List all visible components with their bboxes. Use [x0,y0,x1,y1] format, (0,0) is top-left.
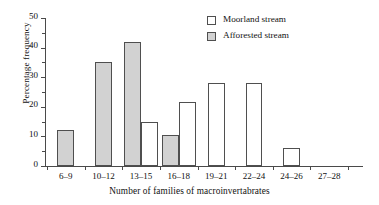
y-axis-tick-minor [42,92,45,93]
x-axis-category-label: 24–26 [280,172,303,181]
y-axis-tick-minor [42,122,45,123]
bar-moorland [208,83,225,166]
legend-label-afforested: Afforested stream [223,31,289,40]
x-axis-category-label: 27–28 [318,172,341,181]
y-axis-tick-major: 50 [41,18,45,19]
y-axis-tick-major: 30 [41,77,45,78]
y-axis-tick-major: 20 [41,107,45,108]
y-axis-tick-minor [42,62,45,63]
y-axis-tick-label: 40 [29,41,38,50]
x-axis-category-label: 16–18 [167,172,190,181]
bar-moorland [283,148,300,166]
bar-moorland [246,83,263,166]
x-axis-tick [273,166,274,170]
plot-area: 010203040506–910–1213–1516–1819–2122–242… [45,14,363,166]
bar-moorland [179,102,196,166]
bar-moorland [141,122,158,166]
histogram-chart: Percentage frequency 010203040506–910–12… [0,0,379,205]
y-axis-tick-label: 50 [29,12,38,21]
y-axis-tick-major: 40 [41,48,45,49]
x-axis-category-label: 22–24 [243,172,266,181]
y-axis-tick-major: 0 [41,166,45,167]
legend-swatch-afforested-icon [207,32,216,41]
y-axis-tick-minor [42,33,45,34]
y-axis-tick-major: 10 [41,136,45,137]
legend-swatch-moorland-icon [207,16,216,25]
bar-afforested [162,135,179,166]
x-axis-tick [160,166,161,170]
legend-item-moorland: Moorland stream [207,12,289,28]
x-axis-tick [348,166,349,170]
bar-afforested [57,130,74,166]
x-axis-tick [47,166,48,170]
x-axis-category-label: 10–12 [92,172,115,181]
y-axis-line [45,18,46,166]
x-axis-title: Number of families of macroinvertabrates [0,186,379,196]
x-axis-category-label: 13–15 [130,172,153,181]
x-axis-line [45,166,363,167]
x-axis-tick [85,166,86,170]
x-axis-tick [198,166,199,170]
legend-item-afforested: Afforested stream [207,28,289,44]
y-axis-tick-label: 20 [29,100,38,109]
x-axis-category-label: 19–21 [205,172,228,181]
x-axis-tick [310,166,311,170]
legend-label-moorland: Moorland stream [223,15,286,24]
bar-afforested [124,42,141,166]
bar-afforested [95,62,112,166]
x-axis-category-label: 6–9 [59,172,73,181]
x-axis-tick [235,166,236,170]
y-axis-tick-label: 0 [34,160,39,169]
y-axis-tick-label: 30 [29,71,38,80]
y-axis-tick-label: 10 [29,130,38,139]
x-axis-tick [122,166,123,170]
legend: Moorland stream Afforested stream [207,12,289,44]
y-axis-tick-minor [42,151,45,152]
